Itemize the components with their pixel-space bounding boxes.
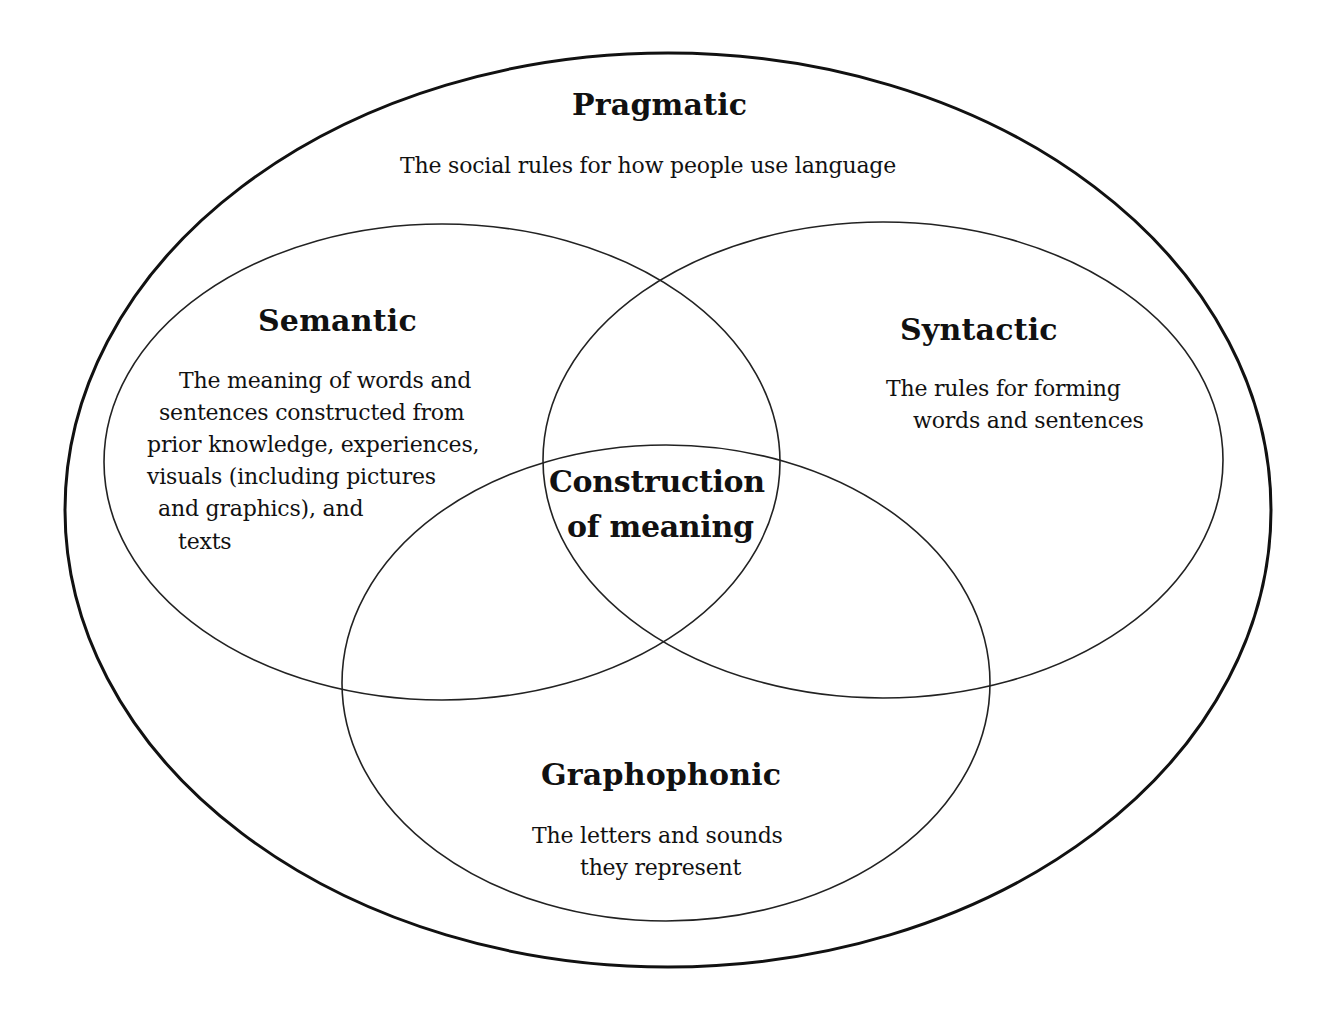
language-cueing-systems-diagram: Pragmatic The social rules for how peopl… (0, 0, 1335, 1027)
semantic-ellipse (104, 224, 780, 700)
graphophonic-description-line: The letters and sounds (532, 825, 783, 847)
graphophonic-description-line: they represent (580, 857, 741, 879)
center-title-line: of meaning (567, 512, 754, 542)
semantic-description-line: visuals (including pictures (147, 466, 436, 488)
semantic-description-line: prior knowledge, experiences, (147, 434, 479, 456)
syntactic-ellipse (543, 222, 1223, 698)
semantic-description-line: sentences constructed from (159, 402, 465, 424)
syntactic-title: Syntactic (900, 315, 1058, 345)
semantic-description-line: texts (178, 531, 231, 553)
center-title-line: Construction (549, 467, 765, 497)
graphophonic-title: Graphophonic (541, 760, 781, 790)
pragmatic-title: Pragmatic (572, 90, 747, 120)
syntactic-description-line: The rules for forming (886, 378, 1121, 400)
semantic-description-line: The meaning of words and (179, 370, 471, 392)
syntactic-description-line: words and sentences (913, 410, 1144, 432)
semantic-title: Semantic (258, 306, 417, 336)
pragmatic-description: The social rules for how people use lang… (400, 155, 896, 177)
semantic-description-line: and graphics), and (158, 498, 363, 520)
